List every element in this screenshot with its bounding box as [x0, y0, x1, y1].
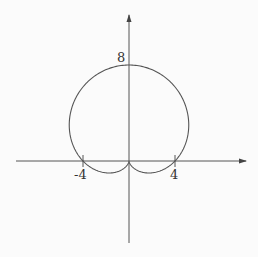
- x-tick-label-pos4: 4: [170, 168, 178, 181]
- y-tick-label-8: 8: [117, 51, 125, 64]
- polar-plot: [0, 0, 258, 257]
- x-tick-label-neg4: -4: [74, 168, 87, 181]
